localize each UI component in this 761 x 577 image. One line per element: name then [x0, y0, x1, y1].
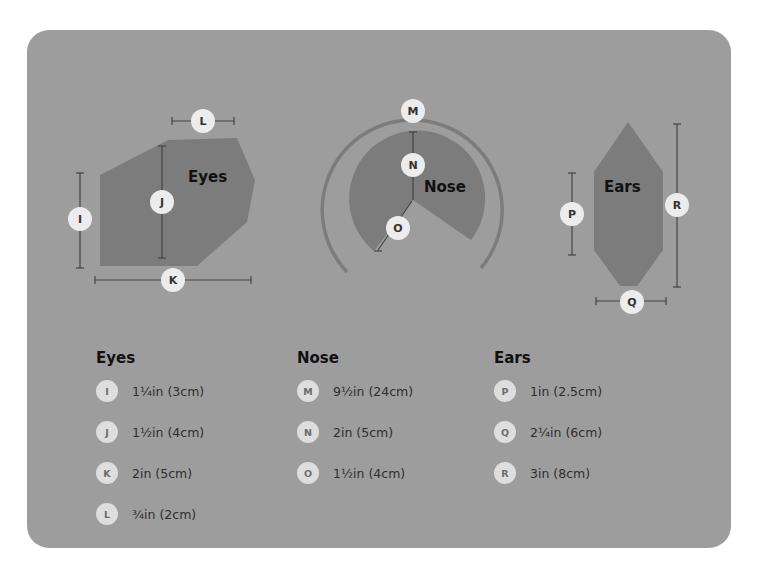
badge-i-label: I — [78, 213, 82, 226]
legend-badge: R — [494, 462, 516, 484]
badge-k-label: K — [169, 274, 178, 287]
legend-item: N 2in (5cm) — [297, 420, 413, 444]
dimension-k: K — [95, 268, 251, 292]
dimension-r: R — [665, 124, 689, 287]
dimension-q: Q — [596, 290, 666, 314]
legend-value: 1¼in (3cm) — [132, 384, 204, 399]
legend-ears-title: Ears — [494, 349, 602, 367]
legend-badge: Q — [494, 421, 516, 443]
legend-nose-title: Nose — [297, 349, 413, 367]
legend-badge: K — [96, 462, 118, 484]
legend-value: 1½in (4cm) — [333, 466, 405, 481]
legend-badge: M — [297, 380, 319, 402]
dimension-i: I — [68, 173, 92, 268]
legend-item: K 2in (5cm) — [96, 461, 204, 485]
eyes-shape-label: Eyes — [188, 168, 227, 186]
badge-l-label: L — [199, 115, 206, 128]
dimension-p: P — [560, 173, 584, 255]
legend-badge: O — [297, 462, 319, 484]
legend-value: 9½in (24cm) — [333, 384, 413, 399]
legend-item: M 9½in (24cm) — [297, 379, 413, 403]
badge-m-label: M — [408, 105, 419, 118]
ears-shape-label: Ears — [604, 178, 641, 196]
legend-eyes: Eyes I 1¼in (3cm) J 1½in (4cm) K 2in (5c… — [96, 349, 204, 543]
legend-badge: L — [96, 503, 118, 525]
eyes-shape — [100, 138, 255, 266]
legend-item: J 1½in (4cm) — [96, 420, 204, 444]
ears-diagram: Ears P R Q — [560, 122, 689, 314]
legend-value: 2in (5cm) — [132, 466, 192, 481]
legend-item: P 1in (2.5cm) — [494, 379, 602, 403]
legend-ears: Ears P 1in (2.5cm) Q 2¼in (6cm) R 3in (8… — [494, 349, 602, 502]
badge-o-label: O — [393, 222, 402, 235]
legend-item: L ¾in (2cm) — [96, 502, 204, 526]
dimension-l: L — [172, 109, 234, 133]
legend-value: 1in (2.5cm) — [530, 384, 602, 399]
legend-nose: Nose M 9½in (24cm) N 2in (5cm) O 1½in (4… — [297, 349, 413, 502]
legend-value: 2¼in (6cm) — [530, 425, 602, 440]
legend-badge: J — [96, 421, 118, 443]
badge-p-label: P — [568, 208, 576, 221]
legend-badge: I — [96, 380, 118, 402]
legend-item: R 3in (8cm) — [494, 461, 602, 485]
legend-badge: P — [494, 380, 516, 402]
legend-value: 3in (8cm) — [530, 466, 590, 481]
legend-eyes-title: Eyes — [96, 349, 204, 367]
nose-diagram: Nose M N O — [322, 99, 502, 272]
legend-item: Q 2¼in (6cm) — [494, 420, 602, 444]
ears-shape — [594, 122, 663, 286]
badge-n-label: N — [408, 159, 417, 172]
badge-j-label: J — [159, 196, 164, 209]
legend-value: ¾in (2cm) — [132, 507, 196, 522]
eyes-diagram: Eyes I J K — [68, 109, 255, 292]
badge-q-label: Q — [627, 296, 636, 309]
badge-r-label: R — [673, 199, 682, 212]
legend-value: 1½in (4cm) — [132, 425, 204, 440]
legend-badge: N — [297, 421, 319, 443]
legend-item: O 1½in (4cm) — [297, 461, 413, 485]
legend-item: I 1¼in (3cm) — [96, 379, 204, 403]
legend-value: 2in (5cm) — [333, 425, 393, 440]
nose-shape-label: Nose — [424, 178, 466, 196]
